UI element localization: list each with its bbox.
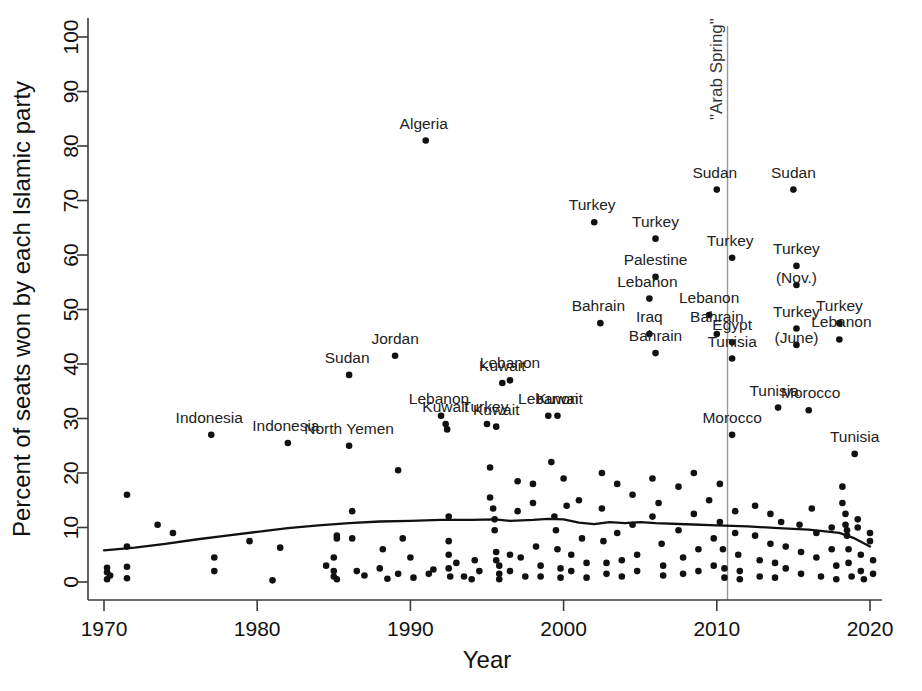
data-point (557, 574, 564, 581)
data-point (828, 546, 835, 553)
data-point (461, 573, 468, 580)
data-point (507, 377, 514, 384)
data-point (104, 565, 111, 572)
data-point (680, 571, 687, 578)
x-axis-title: Year (463, 646, 512, 673)
data-point (496, 562, 503, 569)
data-point (530, 500, 537, 507)
y-axis-tick-label: 60 (59, 243, 82, 266)
data-point (714, 186, 721, 193)
data-point (384, 575, 391, 582)
data-point (392, 353, 399, 360)
data-point (845, 546, 852, 553)
data-point (646, 295, 653, 302)
data-point (124, 575, 131, 582)
data-point (732, 530, 739, 537)
data-point (858, 551, 865, 558)
data-point (752, 532, 759, 539)
data-point (721, 565, 728, 572)
data-point (395, 467, 402, 474)
point-label: Jordan (371, 330, 418, 347)
data-point (548, 459, 555, 466)
data-point (717, 481, 724, 488)
x-axis-tick-label: 1980 (234, 617, 281, 640)
data-point (614, 530, 621, 537)
data-point (553, 527, 560, 534)
data-point (537, 562, 544, 569)
data-point (858, 568, 865, 575)
point-label: (June) (774, 329, 818, 346)
data-point (444, 426, 451, 433)
data-point (848, 573, 855, 580)
x-axis-tick-label: 2020 (847, 617, 894, 640)
data-point (484, 421, 491, 428)
data-point (729, 254, 736, 261)
data-point (422, 137, 429, 144)
data-point (767, 541, 774, 548)
data-point (867, 538, 874, 545)
data-point (568, 568, 575, 575)
point-label: Turkey (569, 196, 616, 213)
data-point (798, 549, 805, 556)
data-point (576, 497, 583, 504)
data-point (599, 470, 606, 477)
data-point (772, 574, 779, 581)
y-axis-tick-label: 0 (59, 576, 82, 588)
data-point (710, 562, 717, 569)
data-point (380, 546, 387, 553)
data-point (277, 544, 284, 551)
data-point (334, 535, 341, 542)
data-point (680, 554, 687, 561)
data-point (634, 568, 641, 575)
data-point (323, 562, 330, 569)
data-point (522, 573, 529, 580)
data-point (805, 407, 812, 414)
point-label: Morocco (781, 384, 840, 401)
point-label: Algeria (400, 115, 449, 132)
data-point (599, 505, 606, 512)
data-point (818, 573, 825, 580)
data-point (487, 494, 494, 501)
x-axis-tick-label: 2010 (693, 617, 740, 640)
data-point (629, 492, 636, 499)
data-point (691, 511, 698, 518)
arab-spring-label: "Arab Spring" (707, 18, 726, 120)
data-point (808, 505, 815, 512)
point-label: Lebanon (811, 313, 871, 330)
data-point (675, 483, 682, 490)
point-label: Indonesia (176, 409, 244, 426)
point-label: Bahrain (572, 297, 625, 314)
data-point (557, 565, 564, 572)
y-axis-tick-label: 90 (59, 80, 82, 103)
point-label: Lebanon (617, 273, 677, 290)
y-axis-tick-label: 30 (59, 407, 82, 430)
data-point (361, 572, 368, 579)
point-label: Morocco (702, 409, 761, 426)
point-label: Kuwait (473, 401, 520, 418)
data-point (851, 451, 858, 458)
data-point (658, 541, 665, 548)
data-point (813, 554, 820, 561)
data-point (854, 516, 861, 523)
data-point (124, 492, 131, 499)
point-label: Turkey (816, 297, 863, 314)
data-point (778, 519, 785, 526)
data-point (603, 571, 610, 578)
scatter-plot-figure: "Arab Spring" IndonesiaIndonesiaNorth Ye… (0, 0, 922, 691)
data-point (706, 497, 713, 504)
data-point (545, 412, 552, 419)
data-point (736, 576, 743, 583)
data-point (154, 521, 161, 528)
data-point (614, 481, 621, 488)
data-point (782, 543, 789, 550)
point-label: Sudan (771, 164, 816, 181)
point-label: Tunisia (830, 428, 880, 445)
data-point (507, 568, 514, 575)
data-point (445, 538, 452, 545)
data-point (514, 478, 521, 485)
data-point (493, 423, 500, 430)
data-point (471, 557, 478, 564)
data-point (603, 560, 610, 567)
data-point (507, 551, 514, 558)
data-point (349, 508, 356, 515)
